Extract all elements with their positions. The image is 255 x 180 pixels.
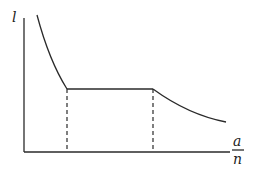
diagram-canvas: l a n xyxy=(0,0,255,180)
decreasing-curve xyxy=(37,15,67,89)
x-axis-label-numerator: a xyxy=(233,133,241,149)
y-axis-label: l xyxy=(12,9,16,25)
x-axis-label-denominator: n xyxy=(233,151,242,167)
decaying-tail xyxy=(153,89,226,122)
